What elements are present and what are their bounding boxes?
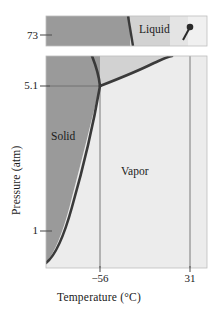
upper-right-lighter-fill — [188, 16, 207, 46]
ytick-label-1: 1 — [12, 225, 38, 236]
x-axis-title: Temperature (°C) — [57, 292, 141, 304]
critical-point-dot — [187, 24, 194, 31]
ytick-label-73: 73 — [12, 30, 38, 41]
ytick-label-5.1: 5.1 — [9, 80, 38, 91]
phase-diagram-canvas — [0, 0, 215, 314]
xtick-label-minus-56: −56 — [78, 273, 122, 284]
upper-panel — [46, 16, 207, 46]
phase-diagram-figure: 73 5.1 1 −56 31 Solid Vapor Liquid Tempe… — [0, 0, 215, 314]
upper-solid-fill — [46, 16, 130, 46]
region-label-liquid: Liquid — [139, 24, 170, 36]
xtick-label-31: 31 — [172, 273, 208, 284]
region-label-solid: Solid — [51, 131, 75, 143]
region-label-vapor: Vapor — [121, 166, 148, 178]
main-panel — [40, 56, 207, 268]
y-axis-title: Pressure (atm) — [11, 145, 23, 215]
